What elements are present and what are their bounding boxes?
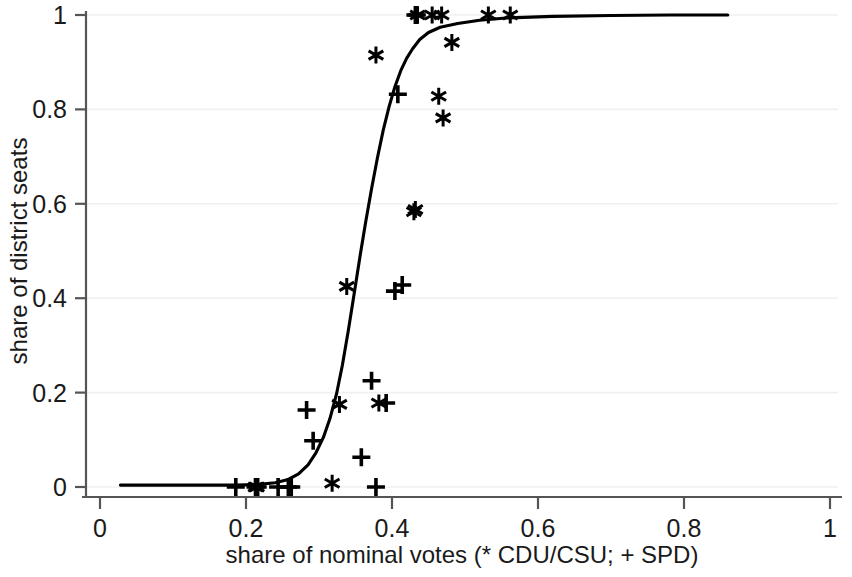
marker-plus [249, 478, 267, 496]
y-axis-title: share of district seats [5, 138, 32, 365]
tick-labels: 00.20.40.60.8100.20.40.60.81 [32, 1, 837, 542]
y-axis-tick-label: 1 [53, 1, 67, 29]
x-axis-tick-label: 0.8 [667, 514, 702, 542]
marker-star [445, 34, 460, 51]
marker-plus [227, 478, 245, 496]
marker-star [339, 278, 354, 295]
marker-plus [352, 448, 370, 466]
scatter-plot: 00.20.40.60.8100.20.40.60.81 share of no… [0, 0, 852, 577]
marker-plus [408, 6, 426, 24]
y-axis-tick-label: 0 [53, 473, 67, 501]
data-markers-cdu-csu [248, 7, 517, 496]
x-axis-tick-label: 0 [93, 514, 107, 542]
y-axis-tick-label: 0.6 [32, 190, 67, 218]
x-axis-tick-label: 0.4 [375, 514, 410, 542]
marker-star [431, 88, 446, 105]
y-axis-tick-label: 0.2 [32, 379, 67, 407]
axis-ticks [75, 15, 830, 509]
y-axis-tick-label: 0.4 [32, 284, 67, 312]
logistic-fit-line [120, 15, 727, 485]
fit-line [120, 15, 727, 485]
marker-plus [298, 401, 316, 419]
gridlines [86, 15, 838, 487]
axis-spines [82, 11, 842, 497]
marker-plus [363, 372, 381, 390]
x-axis-tick-label: 0.6 [521, 514, 556, 542]
marker-star [325, 475, 340, 492]
chart-container: 00.20.40.60.8100.20.40.60.81 share of no… [0, 0, 852, 577]
y-axis-tick-label: 0.8 [32, 95, 67, 123]
marker-star [369, 47, 384, 64]
x-axis-tick-label: 1 [823, 514, 837, 542]
marker-star [436, 109, 451, 126]
marker-plus [367, 478, 385, 496]
x-axis-tick-label: 0.2 [229, 514, 264, 542]
x-axis-title: share of nominal votes (* CDU/CSU; + SPD… [226, 541, 699, 568]
